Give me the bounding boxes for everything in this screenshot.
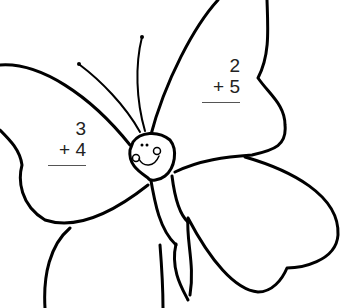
left-eye-icon — [141, 144, 144, 147]
addend-top: 3 — [48, 118, 86, 139]
antennae — [77, 35, 145, 132]
addend-bottom: + 4 — [48, 139, 86, 160]
right-lower-wing — [174, 157, 338, 300]
answer-line — [202, 102, 240, 103]
addend-top: 2 — [202, 55, 240, 76]
addition-problem-right: 2 + 5 — [202, 55, 240, 103]
addend-bottom: + 5 — [202, 76, 240, 97]
left-lower-wing — [45, 228, 163, 308]
right-eye-icon — [146, 144, 149, 147]
butterfly-worksheet: 3 + 4 2 + 5 — [0, 0, 349, 308]
butterfly-head — [130, 133, 175, 180]
addition-problem-left: 3 + 4 — [48, 118, 86, 166]
butterfly-body — [150, 175, 188, 245]
answer-line — [48, 165, 86, 166]
